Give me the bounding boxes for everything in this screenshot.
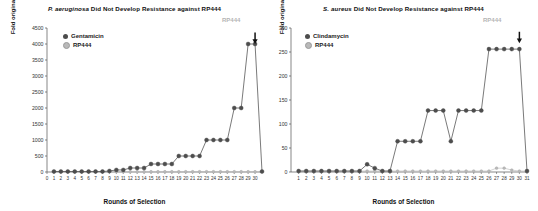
svg-text:18: 18 <box>425 176 431 181</box>
svg-text:14: 14 <box>395 176 401 181</box>
svg-text:1: 1 <box>297 176 300 181</box>
svg-text:16: 16 <box>155 176 161 181</box>
svg-text:14: 14 <box>142 176 148 181</box>
svg-text:1000: 1000 <box>32 137 44 143</box>
svg-text:25: 25 <box>479 176 485 181</box>
svg-text:15: 15 <box>403 176 409 181</box>
svg-text:3: 3 <box>67 176 70 181</box>
svg-text:19: 19 <box>433 176 439 181</box>
svg-text:2000: 2000 <box>32 105 44 111</box>
svg-text:2500: 2500 <box>32 89 44 95</box>
svg-text:18: 18 <box>169 176 175 181</box>
svg-text:200: 200 <box>279 73 288 79</box>
svg-text:23: 23 <box>204 176 210 181</box>
chart-panel-p-aeruginosa: P. aeruginosa Did Not Develop Resistance… <box>0 0 269 211</box>
svg-text:7: 7 <box>343 176 346 181</box>
svg-text:21: 21 <box>448 176 454 181</box>
plot-area: 0500100015002000250030003500400045000123… <box>0 0 269 211</box>
svg-text:17: 17 <box>162 176 168 181</box>
svg-text:11: 11 <box>121 176 126 181</box>
svg-text:500: 500 <box>35 153 44 159</box>
svg-text:12: 12 <box>380 176 386 181</box>
svg-text:29: 29 <box>509 176 515 181</box>
svg-text:11: 11 <box>372 176 377 181</box>
svg-text:8: 8 <box>351 176 354 181</box>
svg-text:3: 3 <box>313 176 316 181</box>
svg-text:27: 27 <box>232 176 238 181</box>
svg-text:24: 24 <box>471 176 477 181</box>
svg-text:19: 19 <box>176 176 182 181</box>
svg-text:20: 20 <box>183 176 189 181</box>
svg-text:22: 22 <box>197 176 203 181</box>
svg-text:150: 150 <box>279 97 288 103</box>
svg-text:20: 20 <box>441 176 447 181</box>
svg-text:27: 27 <box>494 176 500 181</box>
svg-text:0: 0 <box>46 176 49 181</box>
svg-text:16: 16 <box>410 176 416 181</box>
svg-text:9: 9 <box>358 176 361 181</box>
svg-text:23: 23 <box>464 176 470 181</box>
svg-text:30: 30 <box>517 176 523 181</box>
svg-text:0: 0 <box>41 169 44 175</box>
svg-text:24: 24 <box>211 176 217 181</box>
svg-text:29: 29 <box>246 176 252 181</box>
svg-text:4500: 4500 <box>32 25 44 31</box>
plot-area: 0501001502002503001234567891011121314151… <box>269 0 538 211</box>
svg-text:6: 6 <box>335 176 338 181</box>
svg-text:10: 10 <box>365 176 371 181</box>
svg-text:13: 13 <box>135 176 141 181</box>
svg-text:28: 28 <box>502 176 508 181</box>
svg-text:4000: 4000 <box>32 41 44 47</box>
svg-text:25: 25 <box>218 176 224 181</box>
svg-text:21: 21 <box>190 176 196 181</box>
figure-container: P. aeruginosa Did Not Develop Resistance… <box>0 0 538 211</box>
svg-text:2: 2 <box>60 176 63 181</box>
svg-text:0: 0 <box>285 169 288 175</box>
svg-text:8: 8 <box>101 176 104 181</box>
svg-text:250: 250 <box>279 49 288 55</box>
svg-text:5: 5 <box>328 176 331 181</box>
svg-text:1: 1 <box>53 176 56 181</box>
svg-text:30: 30 <box>253 176 259 181</box>
svg-text:50: 50 <box>282 145 288 151</box>
svg-text:4: 4 <box>73 176 76 181</box>
svg-text:28: 28 <box>239 176 245 181</box>
svg-text:1500: 1500 <box>32 121 44 127</box>
svg-text:22: 22 <box>456 176 462 181</box>
svg-text:6: 6 <box>87 176 90 181</box>
svg-text:3000: 3000 <box>32 73 44 79</box>
svg-text:5: 5 <box>80 176 83 181</box>
svg-text:9: 9 <box>108 176 111 181</box>
svg-text:15: 15 <box>148 176 154 181</box>
svg-text:17: 17 <box>418 176 424 181</box>
svg-text:13: 13 <box>387 176 393 181</box>
svg-text:2: 2 <box>305 176 308 181</box>
svg-text:300: 300 <box>279 25 288 31</box>
svg-text:26: 26 <box>225 176 231 181</box>
svg-text:31: 31 <box>524 176 530 181</box>
svg-text:7: 7 <box>94 176 97 181</box>
svg-text:12: 12 <box>128 176 134 181</box>
chart-panel-s-aureus: S. aureus Did Not Develop Resistance aga… <box>269 0 538 211</box>
svg-text:10: 10 <box>114 176 120 181</box>
svg-text:26: 26 <box>486 176 492 181</box>
svg-text:100: 100 <box>279 121 288 127</box>
svg-text:3500: 3500 <box>32 57 44 63</box>
svg-text:4: 4 <box>320 176 323 181</box>
